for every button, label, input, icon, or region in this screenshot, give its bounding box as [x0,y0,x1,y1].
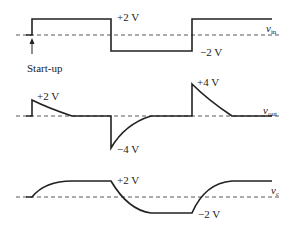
vc-signal-label: vc [271,184,279,198]
vc-panel: +2 V −2 V vc [16,174,281,220]
vout-neg-label: −4 V [117,143,139,155]
vout-signal-label: vout [263,104,277,118]
vin-high-label: +2 V [117,11,139,23]
waveform-diagram: +2 V −2 V vin Start-up +2 V −4 V +4 V vo… [0,0,293,227]
vout-waveform [26,84,272,148]
startup-arrow-icon [30,38,35,44]
startup-label: Start-up [27,62,63,74]
vin-panel: +2 V −2 V vin Start-up [16,11,281,74]
vc-low-label: −2 V [198,208,220,220]
vout-pos-big-label: +4 V [197,76,219,88]
vout-panel: +2 V −4 V +4 V vout [16,76,281,155]
vin-signal-label: vin [266,22,277,36]
vout-pos-small-label: +2 V [37,90,59,102]
vc-high-label: +2 V [117,174,139,186]
vin-low-label: −2 V [200,46,222,58]
